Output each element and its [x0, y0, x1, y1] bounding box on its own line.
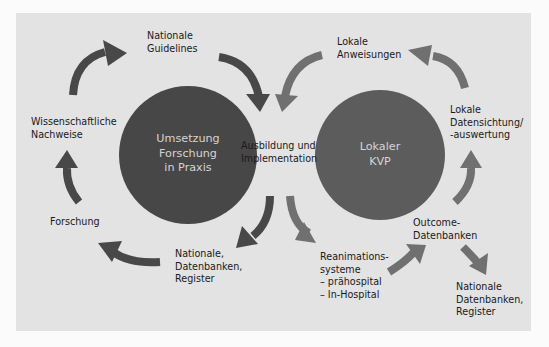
arrow-ausbildung-to-reanimation-icon — [290, 196, 316, 243]
arrow-datenbanken-to-forschung-icon — [98, 241, 160, 262]
arrow-outcome-to-datensichtung-icon — [455, 150, 482, 202]
label-outcome-datenbanken: Outcome- Datenbanken — [413, 217, 477, 242]
label-nationale-guidelines: Nationale Guidelines — [147, 30, 197, 55]
circle-label-lokaler-kvp: Lokaler KVP — [343, 140, 417, 169]
label-nationale-datenbanken-left: Nationale, Datenbanken, Register — [175, 248, 242, 286]
label-nationale-datenbanken-right: Nationale Datenbanken, Register — [456, 281, 523, 319]
label-lokale-anweisungen: Lokale Anweisungen — [337, 36, 401, 61]
arrow-datensichtung-to-anweisungen-icon — [408, 45, 465, 88]
arrow-nachweise-to-guidelines-icon — [73, 40, 127, 95]
label-forschung: Forschung — [50, 216, 100, 229]
arrow-forschung-to-nachweise-icon — [55, 150, 79, 202]
arrow-ausbildung-to-datenbanken-icon — [236, 196, 270, 248]
circle-label-umsetzung: Umsetzung Forschung in Praxis — [143, 132, 233, 176]
arrow-outcome-to-nationale-icon — [463, 247, 488, 275]
label-lokale-datensichtung: Lokale Datensichtung/ -auswertung — [450, 104, 523, 142]
label-wissenschaftliche-nachweise: Wissenschaftliche Nachweise — [31, 116, 117, 141]
label-ausbildung-implementation: Ausbildung und Implementation — [241, 140, 317, 165]
arrow-reanimation-to-outcome-icon — [389, 244, 426, 272]
label-reanimationssysteme: Reanimations- systeme – prähospital – In… — [320, 251, 389, 301]
arrow-anweisungen-to-ausbildung-icon — [275, 55, 322, 112]
